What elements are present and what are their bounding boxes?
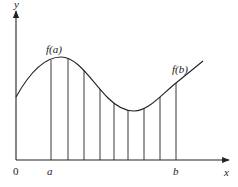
- partition-lines: [51, 58, 176, 160]
- fa-label: f(a): [46, 43, 62, 56]
- origin-label: 0: [13, 165, 19, 177]
- b-label: b: [173, 165, 179, 177]
- fb-label: f(b): [172, 63, 188, 76]
- y-axis-label: y: [13, 0, 19, 10]
- a-label: a: [47, 165, 53, 177]
- x-axis-label: x: [223, 166, 229, 178]
- riemann-diagram: y x 0 a b f(a) f(b): [0, 0, 238, 187]
